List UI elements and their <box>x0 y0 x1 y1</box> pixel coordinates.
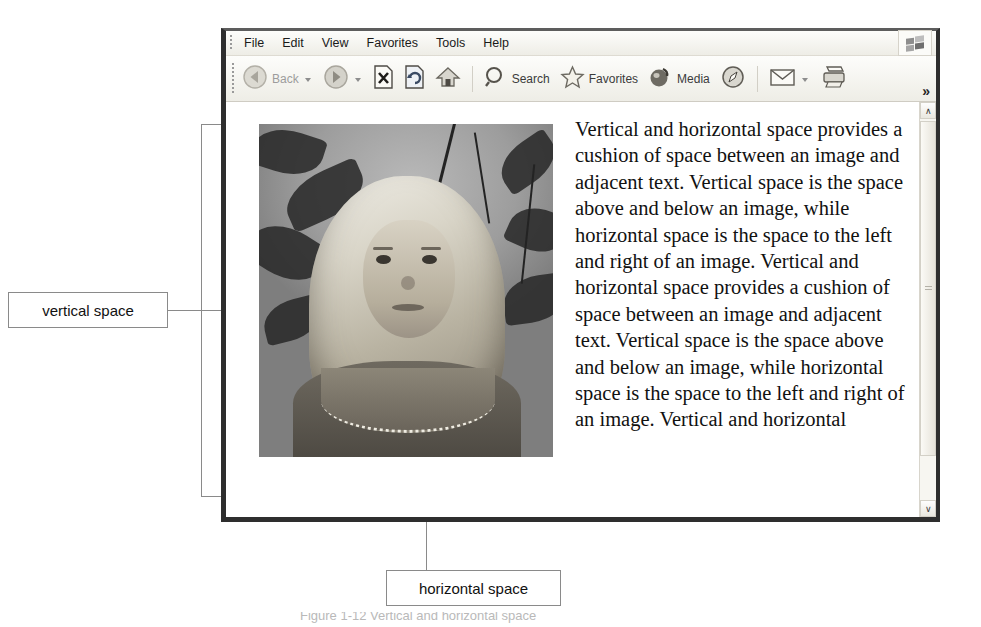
home-icon <box>435 65 461 93</box>
document-body: Vertical and horizontal space provides a… <box>226 102 919 517</box>
favorites-button[interactable]: Favorites <box>555 60 643 98</box>
mail-dropdown-caret[interactable] <box>802 78 808 82</box>
back-arrow-icon <box>242 64 268 94</box>
toolbar-overflow-button[interactable]: » <box>922 83 929 99</box>
navigation-toolbar: Back <box>226 56 936 102</box>
forward-dropdown-caret[interactable] <box>355 78 361 82</box>
media-label: Media <box>677 72 710 86</box>
back-label: Back <box>272 72 299 86</box>
scrollbar-grip <box>925 286 932 292</box>
history-button[interactable] <box>715 60 751 98</box>
horizontal-space-label: horizontal space <box>419 580 528 597</box>
vertical-space-callout: vertical space <box>8 292 168 328</box>
scroll-up-button[interactable]: ∧ <box>920 102 936 119</box>
menu-item-edit[interactable]: Edit <box>273 34 313 52</box>
menu-item-favorites[interactable]: Favorites <box>358 34 427 52</box>
scroll-down-button[interactable]: ∨ <box>920 500 936 517</box>
photo-collar <box>321 368 495 433</box>
figure-caption-text: Figure 1-12 Vertical and horizontal spac… <box>300 612 700 623</box>
photo-eye <box>422 255 437 264</box>
star-icon <box>560 65 585 93</box>
mail-envelope-icon <box>769 66 796 92</box>
page-canvas: Vertical and horizontal space provides a… <box>226 102 936 517</box>
photo-nose <box>401 276 415 290</box>
forward-arrow-icon <box>323 64 349 94</box>
stop-icon <box>373 65 394 93</box>
menu-item-tools[interactable]: Tools <box>427 34 474 52</box>
history-compass-icon <box>720 64 746 94</box>
photo-eye <box>376 255 391 264</box>
forward-button[interactable] <box>318 60 368 98</box>
search-label: Search <box>512 72 550 86</box>
toolbar-separator-2 <box>757 66 758 92</box>
toolbar-separator-1 <box>472 66 473 92</box>
photo-brow <box>373 247 393 250</box>
figure-caption: Figure 1-12 Vertical and horizontal spac… <box>300 612 700 627</box>
menu-drag-grip[interactable] <box>226 31 235 55</box>
vertical-space-label: vertical space <box>42 302 134 319</box>
refresh-button[interactable] <box>399 60 430 98</box>
stop-button[interactable] <box>368 60 399 98</box>
home-button[interactable] <box>430 60 466 98</box>
refresh-icon <box>404 65 425 93</box>
menu-item-file[interactable]: File <box>235 34 273 52</box>
horizontal-space-callout: horizontal space <box>386 570 561 606</box>
photo-brow <box>421 247 441 250</box>
scrollbar-track[interactable] <box>920 119 936 500</box>
search-button[interactable]: Search <box>479 60 555 98</box>
back-dropdown-caret[interactable] <box>305 78 311 82</box>
mail-button[interactable] <box>764 60 815 98</box>
vertical-scrollbar[interactable]: ∧ ∨ <box>919 102 936 517</box>
media-globe-icon <box>648 65 673 93</box>
scrollbar-thumb[interactable] <box>920 121 936 456</box>
vertical-space-bracket-spine <box>201 124 202 496</box>
photo-mouth <box>392 304 424 311</box>
menu-item-view[interactable]: View <box>313 34 358 52</box>
favorites-label: Favorites <box>589 72 638 86</box>
windows-flag-icon <box>898 30 932 56</box>
article-photo <box>259 124 553 457</box>
media-button[interactable]: Media <box>643 60 715 98</box>
toolbar-drag-grip[interactable] <box>228 56 237 101</box>
magnifier-icon <box>484 65 508 93</box>
menu-item-help[interactable]: Help <box>474 34 518 52</box>
menu-bar: File Edit View Favorites Tools Help <box>226 31 936 56</box>
browser-window: File Edit View Favorites Tools Help <box>221 28 940 522</box>
printer-icon <box>820 65 848 93</box>
back-button[interactable]: Back <box>237 60 318 98</box>
print-button[interactable] <box>815 60 853 98</box>
